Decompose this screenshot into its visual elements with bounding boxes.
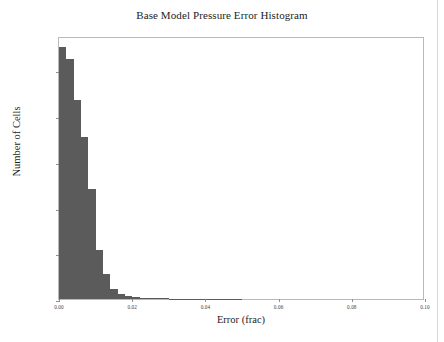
histogram-bar	[227, 299, 234, 300]
x-tick-label: 0.02	[127, 304, 136, 310]
histogram-bar	[176, 299, 183, 300]
x-tick-mark	[205, 299, 206, 302]
y-tick-mark	[56, 255, 59, 256]
histogram-bar	[96, 250, 103, 299]
x-tick-label: 0.00	[54, 304, 63, 310]
page-edge-line	[437, 0, 438, 342]
histogram-bar	[110, 289, 117, 299]
y-tick-mark	[56, 72, 59, 73]
histogram-bar	[183, 299, 190, 300]
histogram-bar	[125, 296, 132, 299]
histogram-bar	[132, 297, 139, 299]
histogram-bar	[191, 299, 198, 300]
histogram-bar	[205, 299, 212, 300]
histogram-bar	[66, 59, 73, 299]
y-tick-mark	[56, 164, 59, 165]
histogram-bar	[59, 47, 66, 299]
x-tick-label: 0.04	[201, 304, 210, 310]
plot-frame: 0200,000400,000600,000800,0001,000,000 0…	[58, 37, 424, 300]
x-tick-label: 0.06	[274, 304, 283, 310]
y-tick-mark	[56, 210, 59, 211]
histogram-bar	[147, 298, 154, 299]
y-axis-label: Number of Cells	[11, 62, 22, 222]
histogram-bar	[161, 298, 168, 299]
plot-area	[59, 38, 423, 299]
histogram-bar	[154, 298, 161, 299]
chart-title: Base Model Pressure Error Histogram	[0, 9, 444, 21]
chart-page: Base Model Pressure Error Histogram 0200…	[0, 0, 444, 342]
histogram-bar	[88, 189, 95, 299]
histogram-bar	[169, 299, 176, 300]
histogram-bar	[198, 299, 205, 300]
histogram-bar	[74, 100, 81, 299]
histogram-bar	[118, 294, 125, 299]
x-tick-label: 0.10	[420, 304, 429, 310]
histogram-bar	[213, 299, 220, 300]
histogram-bar	[235, 299, 242, 300]
x-tick-label: 0.08	[347, 304, 356, 310]
x-tick-mark	[352, 299, 353, 302]
x-tick-mark	[425, 299, 426, 302]
histogram-bar	[220, 299, 227, 300]
histogram-bar	[103, 274, 110, 299]
x-axis-label: Error (frac)	[58, 314, 424, 325]
x-tick-mark	[132, 299, 133, 302]
histogram-bar	[81, 137, 88, 299]
x-tick-mark	[59, 299, 60, 302]
histogram-bar	[140, 298, 147, 299]
y-tick-mark	[56, 118, 59, 119]
x-tick-mark	[279, 299, 280, 302]
